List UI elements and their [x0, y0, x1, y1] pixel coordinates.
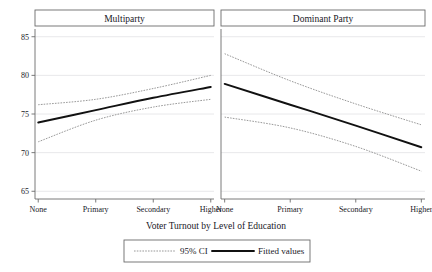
figure-background — [0, 0, 432, 272]
x-axis-title-label: Voter Turnout by Level of Education — [146, 221, 286, 231]
panel-title-label-0: Multiparty — [104, 14, 145, 24]
x-tick-label-1-0: None — [216, 205, 234, 214]
x-tick-label-1-1: Primary — [277, 205, 303, 214]
chart-legend: 95% CIFitted values — [124, 240, 310, 262]
y-tick-label-3: 80 — [21, 71, 29, 80]
y-tick-label-1: 70 — [21, 149, 29, 158]
x-tick-label-1-3: Higher — [410, 205, 432, 214]
y-tick-label-0: 65 — [21, 187, 29, 196]
legend-label-1: Fitted values — [258, 246, 305, 256]
panel-title-label-1: Dominant Party — [293, 14, 354, 24]
legend-label-0: 95% CI — [180, 246, 208, 256]
x-axis-title: Voter Turnout by Level of Education — [146, 221, 286, 231]
y-tick-label-2: 75 — [21, 110, 29, 119]
x-tick-label-1-2: Secondary — [339, 205, 373, 214]
x-tick-label-0-0: None — [30, 205, 48, 214]
y-tick-label-4: 85 — [21, 33, 29, 42]
voter-turnout-figure: Multiparty Dominant Party 6570758085 Non… — [0, 0, 432, 272]
x-tick-label-0-1: Primary — [83, 205, 109, 214]
x-tick-label-0-2: Secondary — [136, 205, 170, 214]
